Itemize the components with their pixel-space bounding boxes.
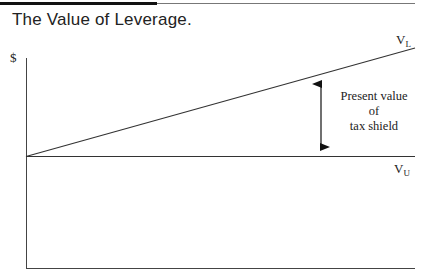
vu-label: VU [394, 161, 410, 178]
leverage-diagram: $ VL VU Present value of tax shield [0, 0, 422, 273]
y-axis-label: $ [10, 50, 17, 65]
annotation-line-1: Present value [341, 89, 408, 103]
annotation-line-2: of [369, 104, 380, 118]
annotation-line-3: tax shield [350, 119, 399, 133]
vl-label: VL [396, 32, 411, 49]
